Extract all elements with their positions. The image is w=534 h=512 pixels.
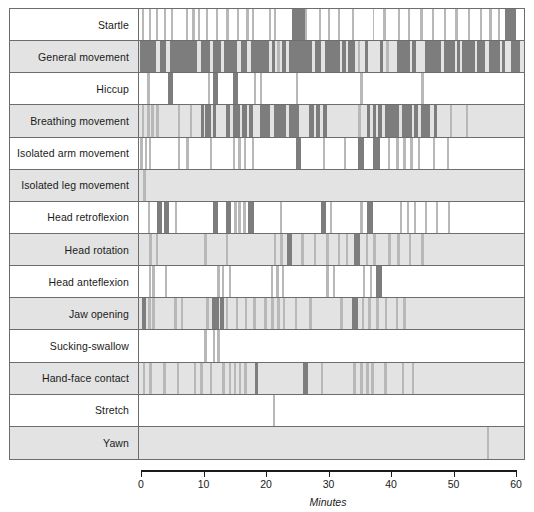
event-bar bbox=[178, 105, 180, 136]
event-bar bbox=[272, 41, 275, 72]
event-bar bbox=[358, 41, 361, 72]
event-bar bbox=[367, 105, 370, 136]
behaviour-row-label: General movement bbox=[10, 41, 139, 72]
behaviour-row: Isolated leg movement bbox=[10, 170, 524, 202]
event-bar bbox=[414, 202, 416, 233]
event-bar bbox=[253, 298, 256, 329]
event-bar bbox=[140, 41, 155, 72]
event-bar bbox=[305, 9, 308, 40]
event-bar bbox=[388, 234, 391, 265]
event-bar bbox=[156, 234, 159, 265]
event-bar bbox=[373, 9, 375, 40]
event-bar bbox=[289, 105, 300, 136]
event-bar bbox=[168, 73, 173, 104]
ethogram-chart: StartleGeneral movementHiccupBreathing m… bbox=[0, 0, 534, 512]
event-bar bbox=[252, 138, 255, 169]
event-bar bbox=[368, 298, 371, 329]
event-bar bbox=[198, 9, 200, 40]
behaviour-row-label: Isolated leg movement bbox=[10, 170, 139, 201]
event-bar bbox=[360, 202, 363, 233]
event-bar bbox=[420, 9, 423, 40]
x-axis-tick bbox=[516, 470, 517, 477]
event-bar bbox=[238, 138, 240, 169]
x-axis-tick-label: 20 bbox=[260, 478, 272, 490]
event-bar bbox=[142, 105, 145, 136]
event-bar bbox=[296, 73, 298, 104]
event-bar bbox=[384, 363, 387, 394]
event-bar bbox=[330, 202, 333, 233]
event-bar bbox=[277, 41, 280, 72]
event-bar bbox=[309, 105, 313, 136]
event-bar bbox=[346, 234, 349, 265]
event-bar bbox=[260, 73, 262, 104]
event-bar bbox=[186, 9, 188, 40]
event-bar bbox=[212, 298, 219, 329]
event-bar bbox=[385, 105, 399, 136]
event-bar bbox=[236, 298, 239, 329]
event-bar bbox=[217, 330, 219, 361]
behaviour-rows: StartleGeneral movementHiccupBreathing m… bbox=[10, 9, 524, 459]
event-bar bbox=[354, 234, 360, 265]
event-bar bbox=[403, 138, 405, 169]
event-bar bbox=[165, 266, 167, 297]
event-bar bbox=[283, 298, 286, 329]
event-bar bbox=[360, 73, 362, 104]
event-bar bbox=[403, 298, 406, 329]
event-bar bbox=[315, 41, 321, 72]
event-bar bbox=[200, 363, 203, 394]
behaviour-row: Breathing movement bbox=[10, 105, 524, 137]
behaviour-row-label: Sucking-swallow bbox=[10, 330, 139, 361]
event-bar bbox=[147, 105, 150, 136]
event-bar bbox=[152, 298, 155, 329]
event-bar bbox=[264, 298, 267, 329]
event-bar bbox=[276, 266, 278, 297]
event-bar bbox=[260, 105, 270, 136]
event-bar bbox=[255, 363, 258, 394]
event-bar bbox=[242, 105, 246, 136]
x-axis-tick bbox=[329, 470, 330, 477]
event-bar bbox=[450, 105, 452, 136]
event-bar bbox=[201, 105, 205, 136]
event-bar bbox=[148, 298, 151, 329]
event-bar bbox=[216, 9, 218, 40]
event-bar bbox=[201, 41, 211, 72]
event-bar bbox=[402, 363, 404, 394]
event-bar bbox=[287, 234, 292, 265]
behaviour-row-label: Jaw opening bbox=[10, 298, 139, 329]
event-bar bbox=[425, 41, 442, 72]
event-bar bbox=[409, 234, 412, 265]
event-bar bbox=[396, 138, 398, 169]
event-bar bbox=[462, 41, 474, 72]
event-bar bbox=[328, 9, 331, 40]
event-bar bbox=[178, 138, 180, 169]
event-bar bbox=[241, 41, 247, 72]
event-bar bbox=[407, 202, 409, 233]
event-bar bbox=[363, 266, 365, 297]
event-bar bbox=[358, 105, 361, 136]
event-bar bbox=[233, 105, 241, 136]
event-bar bbox=[244, 363, 247, 394]
behaviour-row-label: Hiccup bbox=[10, 73, 139, 104]
behaviour-row: Head rotation bbox=[10, 234, 524, 266]
event-bar bbox=[271, 298, 274, 329]
behaviour-event-track bbox=[139, 9, 524, 40]
event-bar bbox=[151, 105, 154, 136]
event-bar bbox=[466, 105, 468, 136]
event-bar bbox=[237, 9, 239, 40]
behaviour-event-track bbox=[139, 170, 524, 201]
event-bar bbox=[342, 41, 345, 72]
behaviour-row: General movement bbox=[10, 41, 524, 73]
event-bar bbox=[477, 41, 485, 72]
event-bar bbox=[233, 138, 235, 169]
event-bar bbox=[164, 9, 166, 40]
event-bar bbox=[186, 138, 188, 169]
event-bar bbox=[353, 363, 356, 394]
event-bar bbox=[273, 395, 275, 426]
event-bar bbox=[213, 73, 218, 104]
event-bar bbox=[160, 41, 166, 72]
x-axis-tick-label: 30 bbox=[323, 478, 335, 490]
event-bar bbox=[365, 41, 368, 72]
event-bar bbox=[142, 9, 144, 40]
behaviour-event-track bbox=[139, 363, 524, 394]
event-bar bbox=[145, 138, 148, 169]
